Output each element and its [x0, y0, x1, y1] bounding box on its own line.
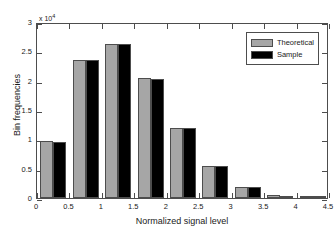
- bar-theoretical[interactable]: [73, 60, 86, 198]
- bar-sample[interactable]: [280, 196, 293, 198]
- y-tick-mark-right: [322, 200, 327, 201]
- legend-label-sample: Sample: [277, 50, 302, 59]
- x-tick-label: 1.5: [121, 202, 145, 211]
- bar-theoretical[interactable]: [138, 78, 151, 198]
- bar-theoretical[interactable]: [267, 195, 280, 198]
- y-tick-label: 2.5: [10, 47, 32, 56]
- bar-theoretical[interactable]: [235, 187, 248, 198]
- bar-theoretical[interactable]: [300, 196, 313, 198]
- bar-group: [167, 22, 199, 198]
- y-tick-label: 1: [10, 135, 32, 144]
- bar-sample[interactable]: [53, 142, 66, 198]
- x-tick-label: 3: [219, 202, 243, 211]
- bar-group: [134, 22, 166, 198]
- legend-swatch-sample: [251, 51, 273, 59]
- bar-sample[interactable]: [248, 187, 261, 198]
- bar-sample[interactable]: [183, 128, 196, 198]
- bar-group: [37, 22, 69, 198]
- legend[interactable]: Theoretical Sample: [246, 32, 319, 65]
- legend-swatch-theoretical: [251, 39, 273, 47]
- bar-group: [199, 22, 231, 198]
- x-tick-label: 0.5: [56, 202, 80, 211]
- x-tick-label: 1: [89, 202, 113, 211]
- bar-theoretical[interactable]: [170, 128, 183, 198]
- bar-theoretical[interactable]: [40, 141, 53, 198]
- legend-label-theoretical: Theoretical: [277, 38, 314, 47]
- x-tick-label: 4: [284, 202, 308, 211]
- x-tick-mark: [329, 193, 330, 198]
- x-tick-label: 2: [154, 202, 178, 211]
- y-tick-label: 3: [10, 18, 32, 27]
- bar-theoretical[interactable]: [202, 166, 215, 198]
- bar-sample[interactable]: [151, 79, 164, 198]
- y-axis-title: Bin frequencies: [12, 40, 22, 170]
- legend-item-sample[interactable]: Sample: [251, 49, 314, 60]
- y-exponent-power: 4: [52, 13, 55, 19]
- y-tick-label: 2: [10, 77, 32, 86]
- y-tick-label: 0.5: [10, 165, 32, 174]
- bar-sample[interactable]: [86, 60, 99, 198]
- x-tick-label: 3.5: [251, 202, 275, 211]
- legend-item-theoretical[interactable]: Theoretical: [251, 37, 314, 48]
- figure-canvas: x 104 Bin frequencies Normalized signal …: [0, 0, 336, 237]
- x-tick-label: 2.5: [186, 202, 210, 211]
- bar-sample[interactable]: [215, 166, 228, 198]
- y-axis-exponent-label: x 104: [39, 13, 55, 22]
- bar-sample[interactable]: [118, 44, 131, 198]
- x-tick-mark-top: [329, 24, 330, 29]
- bar-group: [102, 22, 134, 198]
- y-tick-mark: [37, 200, 42, 201]
- x-tick-label: 4.5: [316, 202, 336, 211]
- bar-theoretical[interactable]: [105, 44, 118, 198]
- x-axis-title: Normalized signal level: [36, 216, 328, 226]
- bar-sample[interactable]: [313, 196, 326, 198]
- bar-group: [69, 22, 101, 198]
- plot-area: Theoretical Sample: [36, 23, 328, 199]
- y-tick-label: 1.5: [10, 106, 32, 115]
- x-tick-label: 0: [24, 202, 48, 211]
